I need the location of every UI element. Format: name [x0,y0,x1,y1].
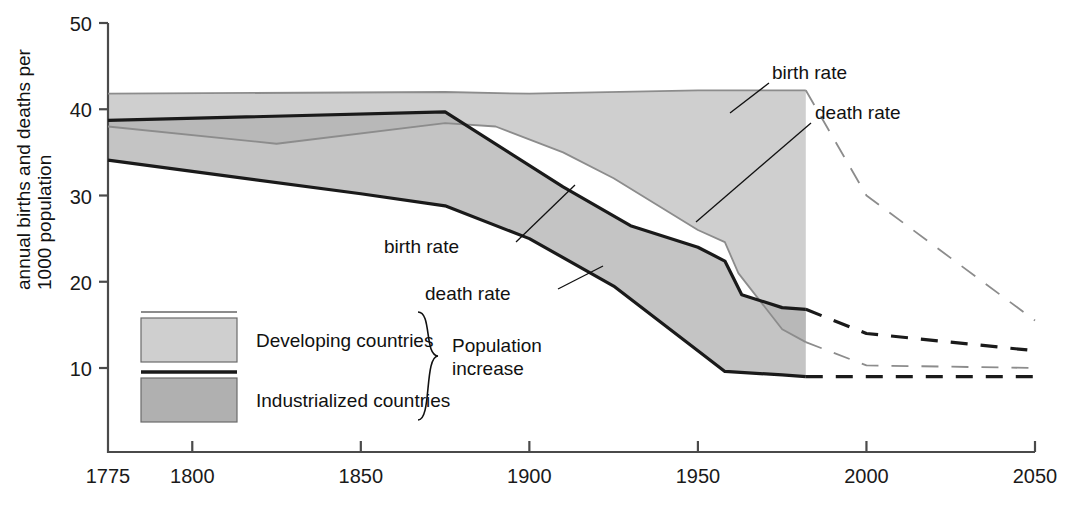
y-axis-tick-label: 50 [70,13,92,35]
legend-swatch-1 [141,378,237,422]
developing-birth-rate-label: birth rate [772,62,847,83]
chart-figure: 10203040501775180018501900195020002050bi… [0,0,1070,509]
x-axis-tick-label: 1950 [676,465,721,487]
x-axis-tick-label: 2050 [1013,465,1058,487]
y-axis-title-line1: annual births and deaths per [13,48,34,290]
industrialized-birth-rate-label: birth rate [384,236,459,257]
x-axis-tick-label: 2000 [844,465,889,487]
x-axis-tick-label: 1850 [339,465,384,487]
industrialized-death-rate-label: death rate [425,283,511,304]
x-axis-tick-label: 1800 [170,465,215,487]
legend-label-1: Industrialized countries [256,390,450,411]
legend-label-0: Developing countries [256,330,433,351]
industrialized-birth-rate-projection [806,309,1035,350]
developing-birth-rate-projection [806,90,1035,320]
y-axis-tick-label: 30 [70,186,92,208]
developing-death-rate-projection [806,342,1035,368]
y-axis-title: annual births and deaths per1000 populat… [13,48,55,290]
y-axis-tick-label: 10 [70,358,92,380]
x-axis-tick-label: 1775 [86,465,131,487]
y-axis-tick-label: 20 [70,272,92,294]
y-axis-title-line2: 1000 population [34,155,55,290]
legend-swatch-0 [141,318,237,362]
legend-brace-label-line1: Population [452,335,542,356]
x-axis-tick-label: 1900 [507,465,552,487]
chart-canvas: 10203040501775180018501900195020002050bi… [0,0,1070,509]
developing-death-rate-label: death rate [815,102,901,123]
y-axis-tick-label: 40 [70,99,92,121]
legend-brace-label-line2: increase [452,358,524,379]
